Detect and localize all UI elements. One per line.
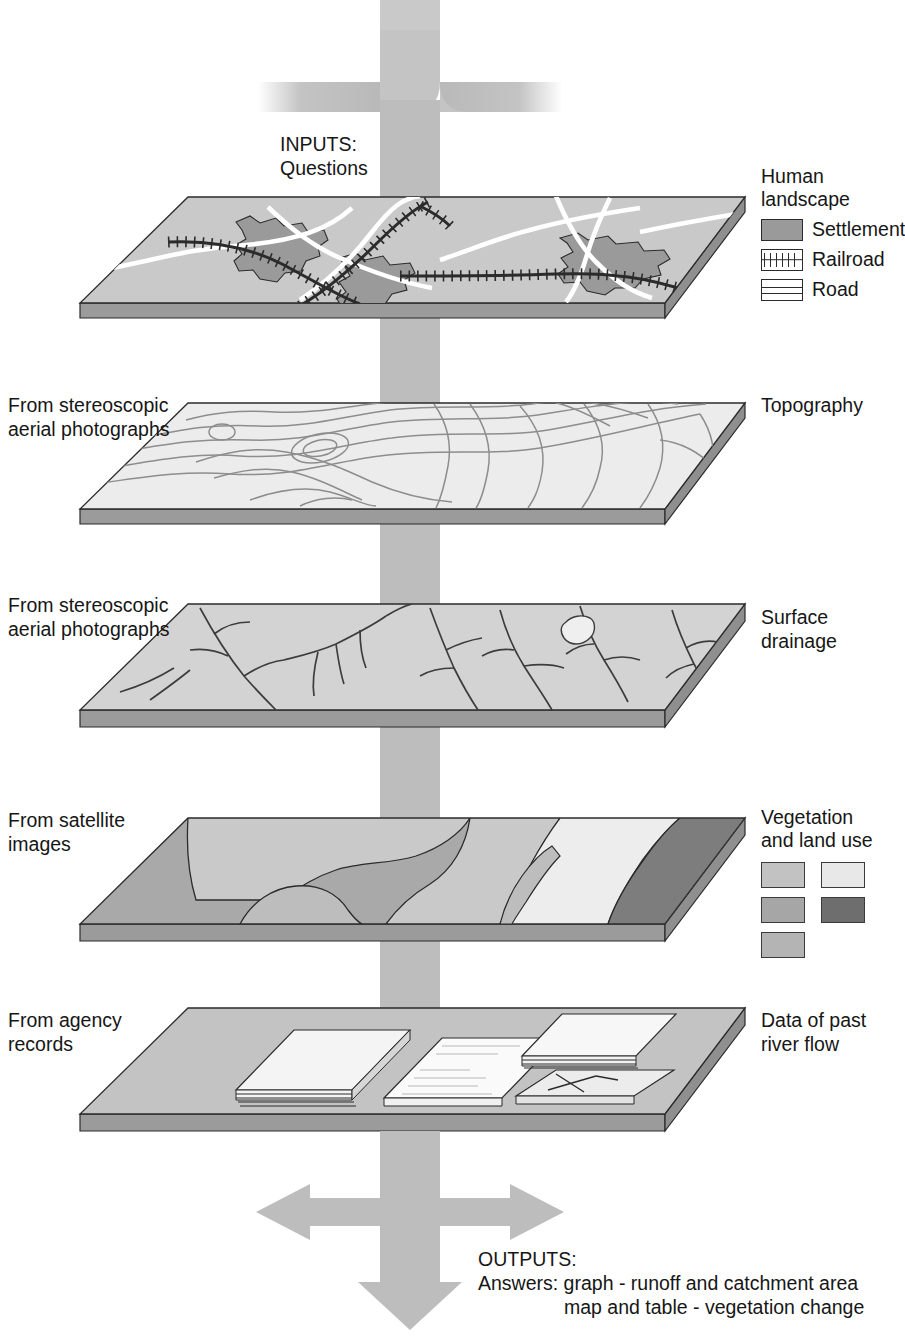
inputs-label: INPUTS: Questions — [280, 132, 368, 180]
legend-title-human-landscape: Human landscape — [761, 165, 905, 211]
right-title-drainage: Surface drainage — [761, 605, 837, 653]
legend-label-settlement: Settlement — [812, 218, 905, 241]
legend-row-road: Road — [761, 278, 905, 301]
legend-label-railroad: Railroad — [812, 248, 885, 271]
outputs-line3: map and table - vegetation change — [478, 1296, 864, 1318]
legend-title-vegetation: Vegetation and land use — [761, 806, 873, 852]
layer-slab-topography — [80, 398, 745, 524]
outputs-line1: OUTPUTS: — [478, 1248, 577, 1270]
vegetation-swatch-grid — [761, 862, 873, 958]
settlement-swatch-icon — [761, 219, 803, 241]
layer-slab-surface-drainage — [80, 604, 745, 727]
inputs-line1: INPUTS: — [280, 133, 357, 155]
road-swatch-icon — [761, 279, 803, 301]
layer-slab-vegetation — [80, 818, 745, 941]
source-label-drainage: From stereoscopic aerial photographs — [8, 593, 170, 641]
legend-human-landscape: Human landscape Settlement Railroad Road — [761, 165, 905, 301]
veg-swatch-3-icon — [761, 897, 805, 923]
veg-swatch-2-icon — [821, 862, 865, 888]
source-label-topography: From stereoscopic aerial photographs — [8, 393, 170, 441]
source-label-vegetation: From satellite images — [8, 808, 125, 856]
source-label-records: From agency records — [8, 1008, 122, 1056]
outputs-line2: Answers: graph - runoff and catchment ar… — [478, 1272, 858, 1294]
legend-label-road: Road — [812, 278, 859, 301]
right-title-records: Data of past river flow — [761, 1008, 866, 1056]
veg-swatch-1-icon — [761, 862, 805, 888]
vegetation-regions — [187, 818, 745, 924]
layer-slab-records — [80, 1008, 745, 1131]
legend-vegetation: Vegetation and land use — [761, 806, 873, 958]
railroad-swatch-icon — [761, 249, 803, 271]
legend-row-railroad: Railroad — [761, 248, 905, 271]
veg-swatch-5-icon — [761, 932, 805, 958]
layer-slab-human-landscape — [80, 196, 745, 318]
legend-row-settlement: Settlement — [761, 218, 905, 241]
outputs-label: OUTPUTS: Answers: graph - runoff and cat… — [478, 1247, 864, 1319]
veg-swatch-4-icon — [821, 897, 865, 923]
inputs-line2: Questions — [280, 157, 368, 179]
right-title-topography: Topography — [761, 393, 863, 417]
